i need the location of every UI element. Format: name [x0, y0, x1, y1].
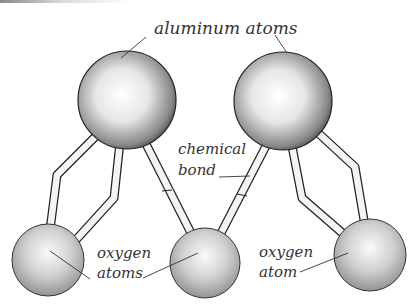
aluminum-oxide-diagram: aluminum atoms chemical bond oxygen atom… — [0, 0, 411, 306]
oxygen-atom-left — [12, 224, 84, 296]
label-oxygen-right: oxygen — [259, 242, 313, 262]
oxygen-atom-right — [334, 219, 406, 291]
oxygen-atom-middle — [170, 228, 240, 298]
label-atom-right: atom — [259, 262, 297, 282]
label-bond: bond — [178, 160, 216, 180]
aluminum-atom-left — [78, 51, 176, 149]
aluminum-atom-right — [234, 52, 332, 150]
label-aluminum-atoms: aluminum atoms — [154, 18, 298, 38]
label-chemical: chemical — [178, 139, 246, 159]
label-oxygen-left: oxygen — [97, 243, 151, 263]
label-atoms-left: atoms — [97, 263, 143, 283]
